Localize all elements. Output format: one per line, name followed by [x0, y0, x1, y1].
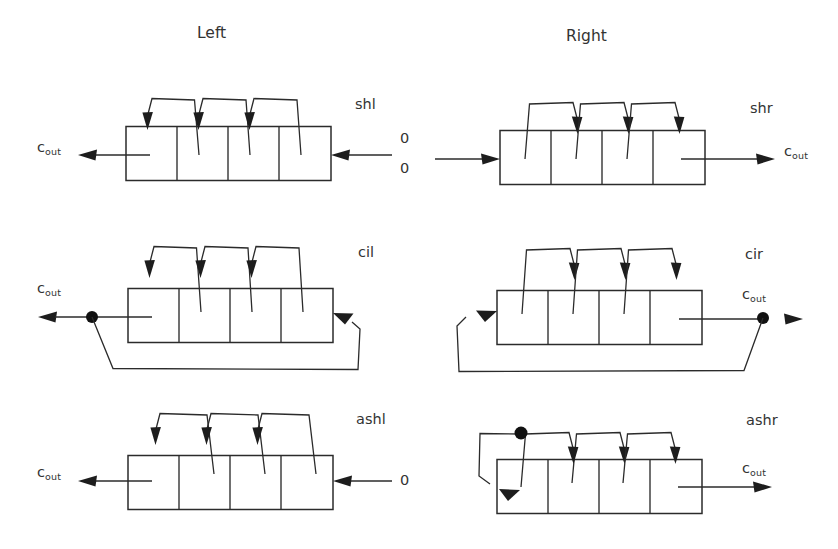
- zero-input-shr: 0: [400, 161, 409, 176]
- input-arrow-ashl: [333, 476, 352, 487]
- shift-arrow-cir-2: [620, 262, 631, 280]
- shift-arrow-shl-3: [244, 112, 255, 130]
- feedback-arrow-cil: [333, 313, 354, 325]
- shift-arrow-shr-1: [572, 116, 583, 134]
- figure-canvas: Left Right shl shr cil cir ashl ashr 0 0…: [0, 0, 838, 549]
- junction-dot-ashr: [515, 427, 528, 440]
- shift-arc-cil-1: [150, 247, 202, 313]
- shift-arc-cil-3: [252, 247, 304, 313]
- output-arrow-shr: [756, 154, 775, 165]
- cout-subscript: out: [750, 293, 766, 304]
- cout-label-shr: cout: [784, 144, 808, 159]
- heading-left: Left: [197, 26, 226, 42]
- shift-arrow-cir-3: [671, 262, 682, 280]
- shift-arc-cil-2: [201, 247, 253, 313]
- op-group-shl: [78, 99, 392, 181]
- cout-label-shl: cout: [37, 140, 61, 155]
- output-arrow-shl: [78, 150, 97, 161]
- shift-arrow-shl-1: [142, 112, 153, 130]
- shift-arrow-shr-2: [623, 116, 634, 134]
- shift-rotate-diagram: [0, 0, 838, 549]
- zero-input-ashl: 0: [400, 473, 409, 488]
- cout-label-cir: cout: [742, 287, 766, 302]
- shift-arrow-ashr-2: [619, 446, 630, 464]
- shift-arrow-ashl-1: [150, 427, 161, 445]
- input-arrow-shl: [331, 150, 350, 161]
- shift-arc-ashr-3: [623, 433, 676, 484]
- shift-arrow-ashr-1: [568, 446, 579, 464]
- shift-arrow-cil-3: [246, 260, 257, 278]
- shift-arc-ashr-2: [572, 433, 625, 484]
- input-arrow-shr: [481, 154, 500, 165]
- shift-arc-ashl-3: [258, 414, 317, 475]
- shift-arrow-ashr-3: [670, 446, 681, 464]
- cout-base: c: [37, 280, 45, 296]
- op-group-ashl: [78, 414, 392, 510]
- output-arrow-cir: [784, 314, 803, 325]
- shift-arrow-shl-2: [193, 112, 204, 130]
- cout-label-cil: cout: [37, 281, 61, 296]
- shift-arrow-cir-1: [569, 262, 580, 280]
- cout-base: c: [742, 460, 750, 476]
- feedback-arrow-cir: [476, 311, 497, 323]
- cout-base: c: [742, 286, 750, 302]
- op-label-shl: shl: [355, 97, 376, 112]
- cout-base: c: [37, 139, 45, 155]
- cout-subscript: out: [792, 150, 808, 161]
- output-arrow-cil: [38, 312, 57, 323]
- op-label-shr: shr: [750, 101, 773, 116]
- shift-arrow-cil-1: [144, 260, 155, 278]
- shift-arrow-cil-2: [195, 260, 206, 278]
- cout-subscript: out: [45, 146, 61, 157]
- op-group-cir: [457, 249, 803, 372]
- output-arrow-ashl: [78, 476, 97, 487]
- cout-subscript: out: [45, 287, 61, 298]
- op-label-ashl: ashl: [356, 412, 386, 427]
- signext-arrow-ashr: [499, 489, 520, 501]
- zero-input-shl: 0: [400, 131, 409, 146]
- cout-label-ashl: cout: [37, 465, 61, 480]
- shift-arc-ashl-2: [207, 414, 266, 475]
- cout-base: c: [37, 464, 45, 480]
- op-group-shr: [435, 103, 775, 185]
- op-group-cil: [38, 247, 360, 370]
- cout-subscript: out: [750, 467, 766, 478]
- shift-arrow-shr-3: [674, 116, 685, 134]
- op-label-cir: cir: [745, 247, 763, 262]
- op-label-cil: cil: [358, 245, 374, 260]
- cout-base: c: [784, 143, 792, 159]
- cout-label-ashr: cout: [742, 461, 766, 476]
- heading-right: Right: [566, 29, 607, 45]
- op-label-ashr: ashr: [746, 413, 778, 428]
- op-group-ashr: [479, 427, 772, 514]
- cout-subscript: out: [45, 471, 61, 482]
- output-arrow-ashr: [753, 482, 772, 493]
- shift-arc-ashl-1: [156, 414, 215, 475]
